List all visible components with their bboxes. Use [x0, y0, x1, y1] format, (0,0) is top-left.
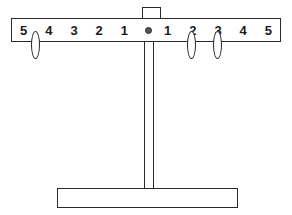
vertical-post: [144, 42, 154, 190]
beam-tick-right-4: 4: [231, 24, 256, 37]
beam-tick-left-1: 1: [112, 24, 137, 37]
weight-right-2: [187, 31, 196, 59]
beam-tick-right-1: 1: [155, 24, 180, 37]
beam-tick-left-3: 3: [61, 24, 86, 37]
weight-left-5: [31, 31, 40, 59]
fulcrum-icon: [145, 27, 152, 34]
weight-right-3: [213, 31, 222, 59]
balance-diagram: 5 4 3 2 1 1 2 3 4 5: [0, 0, 292, 215]
beam-tick-left-2: 2: [87, 24, 112, 37]
base-plate: [57, 188, 238, 208]
beam-tick-left-4: 4: [36, 24, 61, 37]
beam-tick-right-5: 5: [256, 24, 281, 37]
